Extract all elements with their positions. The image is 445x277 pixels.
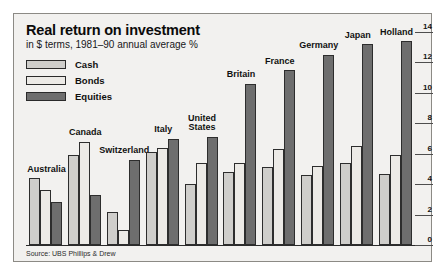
- bar-group: [146, 139, 179, 246]
- bar-group: [107, 160, 140, 245]
- bar-bonds: [79, 142, 90, 245]
- bar-bonds: [40, 190, 51, 245]
- y-axis-tick-label: 8: [428, 113, 432, 122]
- y-axis-tick-label: 12: [423, 52, 432, 61]
- bar-group-label: Holland: [380, 28, 413, 38]
- y-axis-tick-line: [415, 245, 433, 246]
- bar-bonds: [157, 148, 168, 245]
- y-axis-tick-line: [415, 184, 433, 185]
- bar-group-label: Japan: [345, 31, 371, 41]
- bar-bonds: [273, 149, 284, 245]
- bar-equities: [207, 137, 218, 245]
- bar-bonds: [234, 163, 245, 245]
- bar-cash: [68, 155, 79, 245]
- y-axis-tick-line: [415, 62, 433, 63]
- y-axis-tick-line: [415, 215, 433, 216]
- bar-group: [301, 55, 334, 245]
- bar-cash: [29, 178, 40, 245]
- bar-cash: [107, 212, 118, 245]
- bar-group: [223, 84, 256, 245]
- bar-group: [29, 178, 62, 245]
- bar-equities: [284, 70, 295, 245]
- bar-cash: [223, 172, 234, 245]
- bar-group: [379, 41, 412, 245]
- y-axis-tick-line: [415, 123, 433, 124]
- bar-cash: [262, 167, 273, 245]
- plot-area: AustraliaCanadaSwitzerlandItalyUnited St…: [26, 32, 415, 246]
- bar-cash: [379, 174, 390, 246]
- bar-group: [340, 44, 373, 245]
- bar-equities: [168, 139, 179, 246]
- bar-cash: [340, 163, 351, 245]
- bar-cash: [301, 175, 312, 245]
- bar-equities: [90, 195, 101, 245]
- y-axis-tick-label: 14: [423, 22, 432, 31]
- bar-group-label: Australia: [27, 165, 66, 175]
- y-axis-tick-label: 4: [428, 174, 432, 183]
- bar-group-label: Canada: [69, 128, 102, 138]
- x-axis-baseline: [26, 245, 415, 246]
- bar-group-label: Switzerland: [99, 146, 149, 156]
- bar-group-label: Britain: [227, 70, 256, 80]
- bar-group-label: United States: [188, 114, 216, 133]
- bar-cash: [185, 184, 196, 245]
- bar-bonds: [312, 166, 323, 245]
- bar-equities: [323, 55, 334, 245]
- bar-bonds: [351, 146, 362, 245]
- chart-figure: Real return on investment in $ terms, 19…: [13, 13, 432, 262]
- y-axis-tick-line: [415, 93, 433, 94]
- y-axis-tick-label: 10: [423, 83, 432, 92]
- bar-bonds: [118, 230, 129, 245]
- bar-equities: [362, 44, 373, 245]
- y-axis-tick-line: [415, 32, 433, 33]
- bar-group: [262, 70, 295, 245]
- y-axis-tick-label: 2: [428, 205, 432, 214]
- bar-equities: [401, 41, 412, 245]
- bar-group: [185, 137, 218, 245]
- bar-equities: [129, 160, 140, 245]
- bar-cash: [146, 152, 157, 245]
- bar-equities: [51, 202, 62, 245]
- bar-group-label: Germany: [299, 41, 338, 51]
- bar-bonds: [196, 163, 207, 245]
- y-axis-tick-label: 6: [428, 144, 432, 153]
- bar-equities: [245, 84, 256, 245]
- y-axis: 02468101214: [415, 32, 433, 246]
- source-note: Source: UBS Phillips & Drew: [26, 250, 115, 257]
- bar-group-label: France: [265, 57, 295, 67]
- bar-bonds: [390, 155, 401, 245]
- bar-group: [68, 142, 101, 245]
- bar-group-label: Italy: [154, 125, 172, 135]
- y-axis-tick-label: 0: [428, 235, 432, 244]
- y-axis-tick-line: [415, 154, 433, 155]
